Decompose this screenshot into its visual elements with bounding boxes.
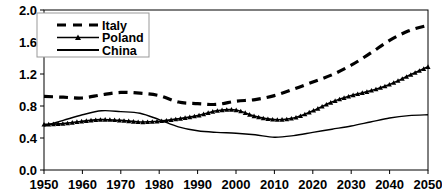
series-markers bbox=[42, 64, 431, 126]
y-axis-tick-label: 1.6 bbox=[19, 35, 37, 50]
x-axis-tick-label: 1980 bbox=[145, 177, 174, 192]
x-axis-tick-label: 1960 bbox=[68, 177, 97, 192]
legend-label: China bbox=[102, 44, 138, 58]
x-axis-tick-label: 1950 bbox=[30, 177, 59, 192]
y-axis-tick-label: 0.4 bbox=[19, 131, 38, 146]
series-poland bbox=[42, 64, 431, 126]
x-axis-tick-label: 2040 bbox=[375, 177, 404, 192]
data-point-marker bbox=[426, 64, 431, 69]
y-axis-tick-label: 2.0 bbox=[19, 3, 37, 18]
series-china bbox=[44, 111, 428, 138]
line-chart: 0.00.40.81.21.62.01950196019701980199020… bbox=[0, 0, 442, 193]
x-axis-tick-label: 2030 bbox=[337, 177, 366, 192]
x-axis-tick-label: 1970 bbox=[106, 177, 135, 192]
y-axis-tick-label: 0.8 bbox=[19, 99, 37, 114]
series-line bbox=[44, 111, 428, 138]
x-axis-tick-label: 2000 bbox=[222, 177, 251, 192]
x-axis-tick-label: 2010 bbox=[260, 177, 289, 192]
series-line bbox=[44, 67, 428, 125]
chart-legend: ItalyPolandChina bbox=[37, 13, 149, 58]
x-axis-tick-label: 2050 bbox=[414, 177, 442, 192]
y-axis-tick-label: 0.0 bbox=[19, 163, 37, 178]
x-axis-tick-label: 1990 bbox=[183, 177, 212, 192]
chart-canvas: 0.00.40.81.21.62.01950196019701980199020… bbox=[0, 0, 442, 193]
x-axis-tick-label: 2020 bbox=[298, 177, 327, 192]
y-axis-tick-label: 1.2 bbox=[19, 67, 37, 82]
